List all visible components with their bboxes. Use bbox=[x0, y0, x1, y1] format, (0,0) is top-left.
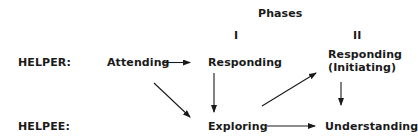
arrow-attending-to-exploring bbox=[154, 83, 190, 117]
arrow-exploring-to-initiating bbox=[262, 73, 316, 106]
